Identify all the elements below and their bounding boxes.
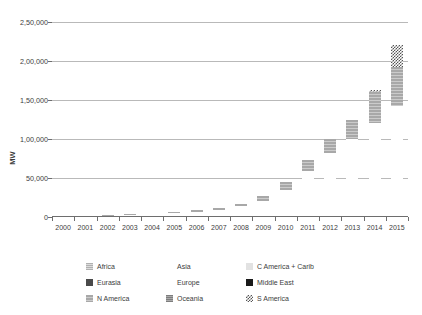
y-axis-tick-label: 1,00,000	[0, 135, 48, 144]
x-axis-tick-label: 2002	[97, 224, 119, 231]
x-axis-tickmark	[230, 217, 231, 221]
x-axis-tickmark	[119, 217, 120, 221]
bar-segment	[369, 123, 381, 192]
bar-segment	[346, 120, 358, 140]
legend-swatch-icon	[86, 263, 93, 270]
stacked-bar[interactable]	[235, 204, 247, 217]
bar-slot	[364, 22, 386, 217]
x-axis-tickmark	[319, 217, 320, 221]
bar-slot	[341, 22, 363, 217]
bar-slot	[74, 22, 96, 217]
x-axis-tick-label: 2008	[230, 224, 252, 231]
bar-slot	[119, 22, 141, 217]
bar-slot	[208, 22, 230, 217]
legend-item[interactable]: N America	[86, 295, 166, 302]
x-axis-tickmarks	[52, 217, 408, 223]
bar-slot	[52, 22, 74, 217]
bar-slot	[163, 22, 185, 217]
legend-swatch-icon	[86, 295, 93, 302]
x-axis-tickmark	[186, 217, 187, 221]
x-axis-tickmark	[364, 217, 365, 221]
y-axis-tick-label: 1,50,000	[0, 96, 48, 105]
legend-item[interactable]: Oceania	[166, 295, 246, 302]
x-axis-tick-label: 2015	[386, 224, 408, 231]
stacked-bar[interactable]	[280, 182, 292, 217]
chart-legend: AfricaAsiaC America + CaribEurasiaEurope…	[86, 258, 336, 306]
bar-slot	[275, 22, 297, 217]
chart-container: MW 050,0001,00,0001,50,0002,00,0002,50,0…	[0, 0, 422, 315]
bar-segment	[391, 182, 403, 217]
bar-slot	[186, 22, 208, 217]
x-axis-tick-label: 2014	[364, 224, 386, 231]
x-axis-tickmark	[97, 217, 98, 221]
x-axis-tick-label: 2009	[252, 224, 274, 231]
x-axis-tick-label: 2000	[52, 224, 74, 231]
legend-label: Oceania	[177, 295, 203, 302]
legend-item[interactable]: C America + Carib	[246, 263, 336, 270]
bar-slot	[97, 22, 119, 217]
legend-item[interactable]: Africa	[86, 263, 166, 270]
bar-segment	[324, 139, 336, 153]
x-axis-tick-label: 2012	[319, 224, 341, 231]
y-axis-tick-label: 2,50,000	[0, 18, 48, 27]
bar-segment	[324, 153, 336, 208]
bar-segment	[369, 192, 381, 217]
x-axis-tickmark	[52, 217, 53, 221]
x-axis-tickmark	[341, 217, 342, 221]
x-axis-tick-label: 2004	[141, 224, 163, 231]
legend-item[interactable]: S America	[246, 295, 336, 302]
legend-label: Asia	[177, 263, 191, 270]
legend-item[interactable]: Eurasia	[86, 279, 166, 286]
x-axis-tickmark	[163, 217, 164, 221]
legend-label: C America + Carib	[257, 263, 314, 270]
stacked-bar[interactable]	[369, 90, 381, 217]
bar-segment	[235, 206, 247, 215]
x-axis-tick-label: 2011	[297, 224, 319, 231]
x-axis-tick-label: 2013	[341, 224, 363, 231]
bar-slot	[252, 22, 274, 217]
bar-slot	[319, 22, 341, 217]
legend-swatch-icon	[86, 279, 93, 286]
legend-swatch-icon	[166, 263, 173, 270]
x-axis-tick-label: 2001	[74, 224, 96, 231]
x-axis-tickmark	[408, 217, 409, 221]
stacked-bar[interactable]	[324, 139, 336, 217]
legend-item[interactable]: Asia	[166, 263, 246, 270]
y-axis-title: MW	[8, 151, 17, 165]
plot-area: 050,0001,00,0001,50,0002,00,0002,50,000	[52, 22, 408, 217]
bar-segment	[280, 182, 292, 190]
bar-slot	[386, 22, 408, 217]
x-axis-tickmark	[208, 217, 209, 221]
x-axis-tick-labels: 2000200120022003200420052006200720082009…	[52, 224, 408, 231]
bar-slot	[297, 22, 319, 217]
y-axis-tick-label: 2,00,000	[0, 57, 48, 66]
x-axis-tickmark	[141, 217, 142, 221]
y-axis-tick-label: 50,000	[0, 174, 48, 183]
x-axis-tickmark	[386, 217, 387, 221]
stacked-bar[interactable]	[302, 160, 314, 217]
legend-label: Europe	[177, 279, 200, 286]
bar-segment	[391, 45, 403, 67]
x-axis-tickmark	[275, 217, 276, 221]
x-axis-tick-label: 2005	[163, 224, 185, 231]
legend-label: S America	[257, 295, 289, 302]
stacked-bar[interactable]	[257, 196, 269, 217]
bar-series-group	[52, 22, 408, 217]
bar-segment	[257, 201, 269, 215]
legend-item[interactable]: Middle East	[246, 279, 336, 286]
bar-segment	[346, 139, 358, 201]
stacked-bar[interactable]	[391, 45, 403, 217]
stacked-bar[interactable]	[346, 120, 358, 217]
bar-slot	[230, 22, 252, 217]
bar-segment	[391, 106, 403, 182]
bar-segment	[346, 201, 358, 217]
bar-segment	[369, 92, 381, 123]
bar-segment	[302, 160, 314, 171]
bar-segment	[280, 190, 292, 213]
legend-swatch-icon	[246, 279, 253, 286]
x-axis-tick-label: 2010	[275, 224, 297, 231]
bar-segment	[302, 171, 314, 211]
legend-item[interactable]: Europe	[166, 279, 246, 286]
x-axis-tickmark	[297, 217, 298, 221]
legend-swatch-icon	[246, 295, 253, 302]
